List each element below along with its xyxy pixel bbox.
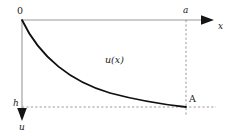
math-diagram-figure: 0 a x h u A u(x) xyxy=(0,0,232,137)
point-a-label: A xyxy=(189,94,196,104)
x-tick-label-a: a xyxy=(183,6,188,15)
x-axis-label: x xyxy=(218,22,223,31)
curve-u-of-x xyxy=(22,20,186,107)
x-axis-arrowhead xyxy=(201,15,214,25)
diagram-canvas xyxy=(0,0,232,137)
u-axis-arrowhead xyxy=(17,108,27,121)
curve-label: u(x) xyxy=(105,55,124,65)
u-axis-label: u xyxy=(19,123,25,132)
origin-label: 0 xyxy=(17,6,23,16)
u-tick-label-h: h xyxy=(13,99,19,108)
